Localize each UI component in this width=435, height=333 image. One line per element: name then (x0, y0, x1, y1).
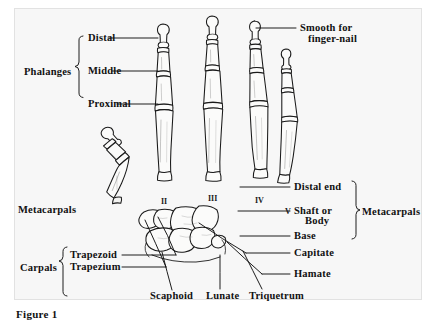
joint-metacarpal-four-base (253, 169, 268, 178)
bone-metacarpal-two (156, 110, 174, 173)
bracket-carpals (59, 247, 67, 296)
label-smooth-for-finger-nail-line2: finger-nail (308, 33, 357, 45)
bone-middle-distal-phalanx (206, 16, 218, 40)
numeral-metacarpal-three: III (208, 194, 217, 203)
leader-triquetrum (243, 251, 262, 289)
joint-metacarpal-three-base (206, 172, 221, 182)
figure-page: Phalanges Distal Middle Proximal Smooth … (0, 0, 435, 333)
label-capitate: Capitate (294, 247, 334, 259)
joint-metacarpal-five-base (278, 174, 290, 183)
label-distal: Distal (88, 32, 115, 44)
joint-thumb-cmc (113, 197, 122, 204)
carpal-bone-triquetrum (190, 227, 215, 248)
bone-index-proximal-phalanx (155, 76, 172, 106)
bone-middle-proximal-phalanx (204, 70, 222, 104)
bone-metacarpal-five (280, 121, 298, 175)
label-proximal: Proximal (88, 98, 131, 110)
label-base: Base (294, 230, 316, 242)
bone-middle-middle-phalanx (206, 44, 220, 66)
label-triquetrum: Triquetrum (249, 290, 304, 302)
bracket-label-carpals: Carpals (20, 262, 57, 274)
label-trapezium: Trapezium (70, 261, 121, 273)
bone-metacarpal-four (250, 106, 268, 170)
label-middle: Middle (88, 65, 121, 77)
numeral-metacarpal-two: II (161, 197, 167, 206)
bone-metacarpal-three (204, 108, 223, 173)
bone-ring-middle-phalanx (250, 49, 263, 69)
bone-ring-distal-phalanx (250, 21, 261, 45)
joint-metacarpal-two-base (157, 172, 171, 181)
bone-little-proximal-phalanx (282, 92, 297, 117)
bone-index-middle-phalanx (157, 52, 170, 72)
bone-index-distal-phalanx (157, 24, 169, 48)
label-smooth-for-finger-nail-line1: Smooth for (300, 22, 352, 34)
label-metacarpals-left: Metacarpals (18, 204, 76, 216)
label-shaft-or-body-line2: Body (305, 215, 329, 226)
bracket-label-metacarpals-right: Metacarpals (362, 206, 420, 218)
bone-little-middle-phalanx (282, 73, 293, 89)
hand-skeleton-illustration (0, 0, 435, 333)
bracket-label-phalanges: Phalanges (24, 66, 71, 78)
label-distal-end: Distal end (294, 181, 341, 193)
label-hamate: Hamate (294, 268, 331, 280)
bracket-metacarpals-right (352, 181, 360, 239)
numeral-metacarpal-four: IV (255, 196, 264, 205)
figure-caption: Figure 1 (16, 308, 58, 320)
leader-scaphoid (162, 252, 172, 290)
label-scaphoid: Scaphoid (150, 290, 193, 302)
label-trapezoid: Trapezoid (70, 249, 117, 261)
bracket-phalanges (75, 36, 83, 98)
bone-little-distal-phalanx (281, 49, 291, 70)
label-lunate: Lunate (206, 290, 239, 302)
leader-hamate-hook (227, 242, 262, 274)
bone-ring-proximal-phalanx (250, 72, 268, 102)
numeral-metacarpal-five: V (285, 207, 291, 216)
leader-lines (108, 28, 296, 290)
